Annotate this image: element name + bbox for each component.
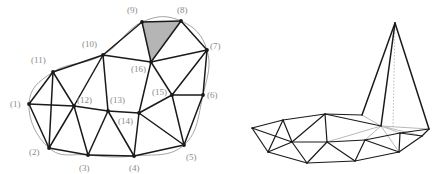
mesh-figure-svg: (1)(2)(3)(4)(5)(6)(7)(8)(9)(10)(11)(12)(… [0, 0, 447, 174]
vertex-label: (6) [207, 90, 218, 100]
mesh-vertex [101, 53, 105, 57]
mesh-vertex [182, 143, 186, 147]
vertex-label: (8) [177, 5, 188, 15]
mesh-edge [103, 55, 151, 62]
vertex-label: (7) [210, 41, 221, 51]
mesh-edge [181, 21, 207, 50]
vertex-label: (4) [129, 163, 140, 173]
mesh-edge [74, 106, 88, 155]
mesh-edge [49, 72, 53, 148]
mesh-vertex [86, 153, 90, 157]
lifted-edge [252, 128, 268, 152]
left-panel-planar-mesh: (1)(2)(3)(4)(5)(6)(7)(8)(9)(10)(11)(12)(… [10, 5, 221, 173]
lifted-edge [325, 114, 327, 142]
mesh-edge [103, 22, 142, 55]
hidden-edge [327, 126, 381, 142]
lifted-edge [307, 142, 327, 163]
lifted-edge [252, 120, 283, 128]
lifted-edge-group [252, 23, 429, 163]
vertex-label: (2) [29, 147, 40, 157]
lifted-edge [365, 133, 400, 140]
mesh-edge [53, 72, 74, 106]
mesh-edge [142, 21, 181, 22]
mesh-edge-group [29, 21, 207, 156]
vertex-label: (1) [10, 99, 21, 109]
mesh-edge [184, 95, 203, 145]
mesh-edge [88, 155, 134, 156]
mesh-edge [49, 106, 74, 148]
lifted-edge [399, 136, 422, 152]
mesh-edge [74, 106, 108, 111]
mesh-edge [103, 55, 108, 111]
vertex-label: (9) [127, 5, 138, 15]
shaded-triangle [142, 21, 181, 62]
mesh-vertex [72, 104, 76, 108]
mesh-edge [108, 111, 139, 113]
lifted-edge [307, 161, 355, 163]
mesh-vertex [27, 102, 31, 106]
lifted-edge [355, 152, 399, 161]
mesh-vertex [47, 146, 51, 150]
vertex-label: (13) [110, 95, 125, 105]
mesh-vertex [205, 48, 209, 52]
apex-edge [362, 23, 395, 115]
mesh-edge [49, 148, 88, 155]
mesh-vertex [51, 70, 55, 74]
mesh-vertex [201, 93, 205, 97]
lifted-edge [399, 133, 400, 152]
mesh-edge [29, 72, 53, 104]
lifted-edge [327, 142, 355, 161]
lifted-edge [325, 114, 381, 126]
lifted-edge [355, 140, 365, 161]
vertex-label: (5) [186, 152, 197, 162]
lifted-edge [365, 140, 399, 152]
mesh-edge [139, 95, 172, 113]
hidden-edge-group [327, 115, 429, 152]
vertex-label: (15) [152, 87, 167, 97]
vertex-label: (10) [82, 39, 97, 49]
apex-edge [395, 23, 429, 129]
mesh-vertex [106, 109, 110, 113]
mesh-vertex [140, 20, 144, 24]
vertex-label: (12) [77, 95, 92, 105]
vertex-label: (11) [31, 55, 46, 65]
mesh-vertex [149, 60, 153, 64]
vertex-label: (3) [79, 163, 90, 173]
figure-root: (1)(2)(3)(4)(5)(6)(7)(8)(9)(10)(11)(12)(… [0, 0, 447, 174]
mesh-edge [88, 111, 108, 155]
vertex-label: (14) [118, 116, 133, 126]
mesh-edge [29, 104, 49, 148]
right-panel-lifted-mesh [252, 23, 429, 163]
lifted-edge [268, 152, 307, 163]
lifted-edge [252, 128, 292, 142]
mesh-vertex [137, 111, 141, 115]
mesh-vertex [179, 19, 183, 23]
mesh-edge [134, 113, 139, 156]
lifted-edge [400, 129, 429, 133]
vertex-label: (16) [131, 64, 146, 74]
mesh-vertex [132, 154, 136, 158]
mesh-vertex [170, 93, 174, 97]
